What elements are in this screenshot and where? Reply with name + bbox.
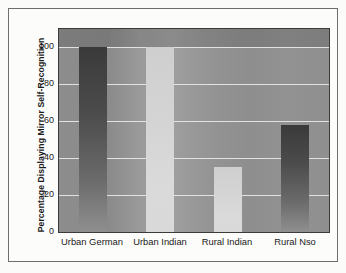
bar-chart: Percentage Displaying Mirror Self-Recogn… bbox=[0, 0, 346, 273]
y-axis-tick-labels: 020406080100 bbox=[26, 28, 54, 233]
x-tick-label: Rural Indian bbox=[193, 236, 261, 247]
y-tick-label: 20 bbox=[28, 190, 54, 199]
bar-rural-nso[interactable] bbox=[281, 125, 309, 232]
plot-area bbox=[58, 28, 330, 233]
y-tick-label: 100 bbox=[28, 42, 54, 51]
x-axis-tick-labels: Urban GermanUrban IndianRural IndianRura… bbox=[58, 236, 330, 252]
bar-rural-indian[interactable] bbox=[214, 167, 242, 232]
chart-page: Percentage Displaying Mirror Self-Recogn… bbox=[0, 0, 346, 273]
y-tick-label: 80 bbox=[28, 79, 54, 88]
x-tick-label: Urban Indian bbox=[126, 236, 194, 247]
y-tick-label: 0 bbox=[28, 227, 54, 236]
x-tick-label: Urban German bbox=[58, 236, 126, 247]
y-tick-label: 40 bbox=[28, 153, 54, 162]
x-tick-label: Rural Nso bbox=[261, 236, 329, 247]
bar-urban-indian[interactable] bbox=[146, 47, 174, 232]
bar-urban-german[interactable] bbox=[79, 47, 107, 232]
y-tick-label: 60 bbox=[28, 116, 54, 125]
plot-top-band bbox=[59, 29, 329, 47]
